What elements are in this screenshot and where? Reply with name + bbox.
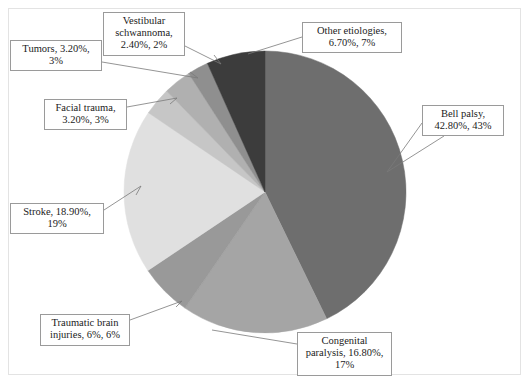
leader-tumors: [102, 62, 198, 78]
data-label-bell-palsy[interactable]: Bell palsy, 42.80%, 43%: [422, 105, 504, 136]
data-label-vestibular-schwannoma[interactable]: Vestibular schwannoma, 2.40%, 2%: [103, 12, 185, 56]
data-label-text: Stroke, 18.90%, 19%: [15, 206, 99, 230]
data-label-traumatic-brain-injuries[interactable]: Traumatic brain injuries, 6%, 6%: [40, 314, 130, 346]
data-label-text: Tumors, 3.20%, 3%: [15, 43, 97, 67]
leader-vestibular-schwannoma: [185, 46, 221, 64]
pie-slice-group: [124, 51, 406, 333]
data-label-stroke[interactable]: Stroke, 18.90%, 19%: [10, 203, 104, 234]
leader-traumatic-brain-injuries: [130, 301, 182, 320]
data-label-other-etiologies[interactable]: Other etiologies, 6.70%, 7%: [302, 22, 402, 53]
data-label-text: Facial trauma, 3.20%, 3%: [49, 102, 122, 126]
data-label-tumors[interactable]: Tumors, 3.20%, 3%: [10, 40, 102, 71]
data-label-congenital-paralysis[interactable]: Congenital paralysis, 16.80%, 17%: [297, 332, 392, 376]
data-label-text: Vestibular schwannoma, 2.40%, 2%: [108, 15, 180, 52]
data-label-facial-trauma[interactable]: Facial trauma, 3.20%, 3%: [44, 99, 127, 130]
data-label-text: Other etiologies, 6.70%, 7%: [307, 25, 397, 49]
data-label-text: Bell palsy, 42.80%, 43%: [427, 108, 499, 132]
data-label-text: Traumatic brain injuries, 6%, 6%: [45, 317, 125, 341]
data-label-text: Congenital paralysis, 16.80%, 17%: [302, 335, 387, 372]
